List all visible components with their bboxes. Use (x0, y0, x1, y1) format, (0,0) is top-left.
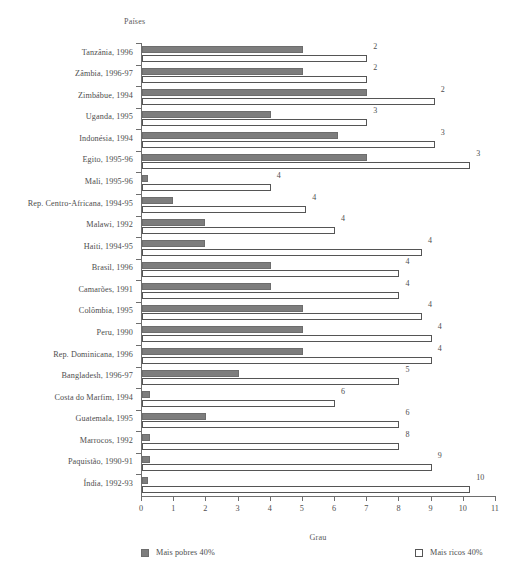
category-label: Brasil, 1996 (92, 263, 133, 272)
bar-poorest-40 (142, 434, 150, 441)
bar-richest-40 (142, 76, 367, 83)
legend-swatch-richest (415, 549, 423, 557)
bar-poorest-40 (142, 46, 303, 53)
category-label: Tanzânia, 1996 (82, 48, 133, 57)
category-label: Costa do Marfim, 1994 (54, 393, 133, 402)
chart-row: Peru, 19904 (141, 323, 495, 345)
bar-poorest-40 (142, 132, 338, 139)
bar-richest-40 (142, 270, 399, 277)
category-label: Camarões, 1991 (78, 285, 133, 294)
y-axis-tick (136, 453, 141, 454)
legend-swatch-poorest (141, 549, 149, 557)
bar-richest-40 (142, 357, 432, 364)
y-axis-tick (136, 388, 141, 389)
data-value-annotation: 4 (405, 257, 409, 266)
bar-richest-40 (142, 421, 399, 428)
bar-richest-40 (142, 141, 435, 148)
y-axis-tick (136, 43, 141, 44)
bar-richest-40 (142, 292, 399, 299)
legend-entry-poorest: Mais pobres 40% (141, 548, 215, 557)
y-axis-tick (136, 280, 141, 281)
plot-area: Tanzânia, 19962Zâmbia, 1996-972Zimbábue,… (141, 43, 495, 496)
chart-row: Bangladesh, 1996-975 (141, 367, 495, 389)
category-label: Indonésia, 1994 (79, 134, 133, 143)
chart-row: Haiti, 1994-954 (141, 237, 495, 259)
chart-row: Paquistão, 1990-919 (141, 453, 495, 475)
y-axis-tick (136, 345, 141, 346)
chart-legend: Mais pobres 40% Mais ricos 40% (141, 548, 495, 564)
x-axis-tick (302, 496, 303, 501)
x-axis-tick-label: 6 (332, 504, 336, 513)
bar-poorest-40 (142, 197, 173, 204)
bar-poorest-40 (142, 348, 303, 355)
data-value-annotation: 4 (428, 236, 432, 245)
y-axis-tick (136, 237, 141, 238)
bar-chart: Países Tanzânia, 19962Zâmbia, 1996-972Zi… (0, 0, 517, 580)
bar-richest-40 (142, 486, 470, 493)
data-value-annotation: 4 (438, 344, 442, 353)
bar-poorest-40 (142, 305, 303, 312)
bar-poorest-40 (142, 477, 148, 484)
y-axis-tick (136, 86, 141, 87)
x-axis-tick-label: 0 (139, 504, 143, 513)
bar-richest-40 (142, 313, 422, 320)
chart-row: Rep. Dominicana, 19964 (141, 345, 495, 367)
category-label: Paquistão, 1990-91 (68, 457, 133, 466)
bar-richest-40 (142, 184, 271, 191)
category-label: Colômbia, 1995 (79, 306, 133, 315)
chart-row: Egito, 1995-963 (141, 151, 495, 173)
bar-poorest-40 (142, 262, 271, 269)
bar-poorest-40 (142, 456, 150, 463)
chart-row: Guatemala, 19956 (141, 410, 495, 432)
y-axis-tick (136, 216, 141, 217)
chart-row: Mali, 1995-964 (141, 172, 495, 194)
y-axis-tick (136, 367, 141, 368)
bar-richest-40 (142, 378, 399, 385)
category-label: Egito, 1995-96 (82, 155, 133, 164)
category-label: Haiti, 1994-95 (84, 242, 133, 251)
data-value-annotation: 3 (476, 149, 480, 158)
data-value-annotation: 4 (312, 193, 316, 202)
x-axis-tick-label: 2 (203, 504, 207, 513)
x-axis-tick (334, 496, 335, 501)
bar-poorest-40 (142, 175, 148, 182)
data-value-annotation: 6 (341, 387, 345, 396)
chart-row: Rep. Centro-Africana, 1994-954 (141, 194, 495, 216)
bar-richest-40 (142, 400, 335, 407)
data-value-annotation: 10 (476, 473, 484, 482)
bar-poorest-40 (142, 283, 271, 290)
category-label: Rep. Centro-Africana, 1994-95 (28, 199, 133, 208)
y-axis-tick (136, 172, 141, 173)
category-label: Zimbábue, 1994 (78, 91, 133, 100)
y-axis-tick (136, 431, 141, 432)
legend-label-richest: Mais ricos 40% (430, 548, 483, 557)
chart-row: Malawi, 19924 (141, 216, 495, 238)
chart-row: Marrocos, 19928 (141, 431, 495, 453)
x-axis-tick (366, 496, 367, 501)
x-axis-line (141, 496, 496, 497)
x-axis-tick (141, 496, 142, 501)
category-label: Índia, 1992-93 (83, 479, 133, 488)
chart-row: Índia, 1992-9310 (141, 474, 495, 496)
bar-richest-40 (142, 335, 432, 342)
data-value-annotation: 9 (438, 451, 442, 460)
category-label: Rep. Dominicana, 1996 (53, 350, 133, 359)
bar-richest-40 (142, 249, 422, 256)
x-axis-tick-label: 4 (268, 504, 272, 513)
y-axis-tick (136, 259, 141, 260)
bar-poorest-40 (142, 413, 206, 420)
data-value-annotation: 4 (438, 322, 442, 331)
x-axis-tick-label: 7 (364, 504, 368, 513)
x-axis-tick (495, 496, 496, 501)
chart-row: Costa do Marfim, 19946 (141, 388, 495, 410)
chart-row: Zâmbia, 1996-972 (141, 65, 495, 87)
data-value-annotation: 5 (405, 365, 409, 374)
x-axis-tick-label: 1 (171, 504, 175, 513)
x-axis-tick (238, 496, 239, 501)
chart-row: Tanzânia, 19962 (141, 43, 495, 65)
data-value-annotation: 4 (405, 279, 409, 288)
category-label: Uganda, 1995 (86, 112, 133, 121)
category-label: Mali, 1995-96 (85, 177, 133, 186)
bar-poorest-40 (142, 391, 150, 398)
bar-richest-40 (142, 98, 435, 105)
